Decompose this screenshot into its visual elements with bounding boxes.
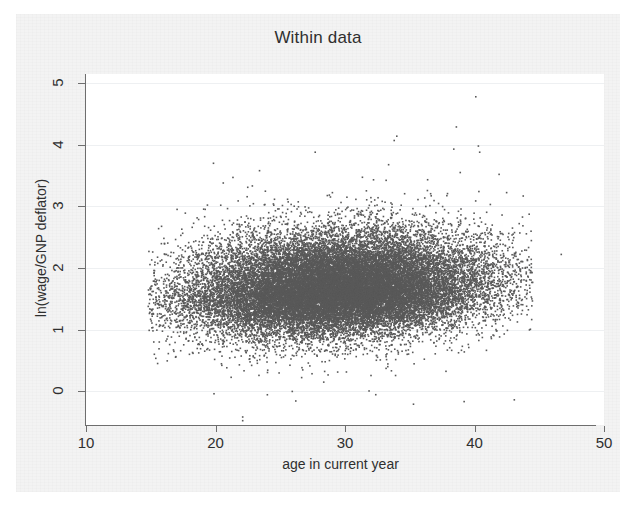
y-tick-label: 5 [49, 70, 66, 96]
scatter-points-layer [86, 74, 604, 425]
x-tick-mark [604, 426, 605, 432]
y-tick-mark [78, 330, 85, 331]
x-tick-mark [216, 426, 217, 432]
y-tick-label: 3 [49, 193, 66, 219]
x-axis-line [85, 425, 596, 426]
x-tick-mark [86, 426, 87, 432]
y-axis-title: ln(wage/GNP deflator) [33, 118, 49, 378]
y-axis-line [85, 74, 86, 426]
x-tick-label: 20 [196, 434, 236, 451]
x-tick-label: 30 [325, 434, 365, 451]
y-tick-label: 1 [49, 316, 66, 342]
y-tick-mark [78, 206, 85, 207]
y-tick-mark [78, 268, 85, 269]
x-tick-label: 40 [455, 434, 495, 451]
x-axis-title: age in current year [85, 456, 596, 472]
y-tick-label: 0 [49, 378, 66, 404]
page-title: Within data [0, 28, 636, 48]
x-tick-mark [475, 426, 476, 432]
plot-data-region [86, 74, 604, 425]
x-tick-label: 10 [66, 434, 106, 451]
y-tick-mark [78, 83, 85, 84]
scatter-plot-figure: Within data 012345 1020304050 ln(wage/GN… [0, 0, 636, 509]
x-tick-label: 50 [584, 434, 624, 451]
y-tick-label: 2 [49, 254, 66, 280]
y-tick-mark [78, 391, 85, 392]
y-tick-mark [78, 145, 85, 146]
y-tick-label: 4 [49, 131, 66, 157]
x-tick-mark [345, 426, 346, 432]
